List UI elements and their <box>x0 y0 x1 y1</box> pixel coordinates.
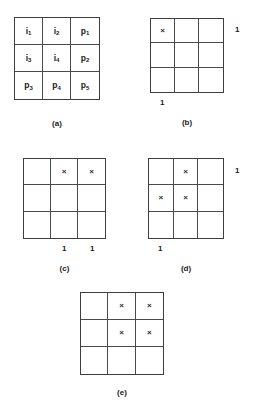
cell-b-r2c3 <box>199 43 223 67</box>
cell-d-r2c1: × <box>149 185 174 211</box>
cell-subscript: 1 <box>28 30 31 36</box>
cell-c-r3c2 <box>51 212 78 238</box>
cell-subscript: 3 <box>29 85 32 91</box>
cell-a-r3c3: p5 <box>71 72 99 99</box>
cell-e-r2c1 <box>81 320 108 347</box>
cell-subscript: 2 <box>86 57 89 63</box>
x-mark-icon: × <box>119 329 124 337</box>
cell-b-r1c2 <box>175 19 199 43</box>
column-label-d-col1: 1 <box>158 245 162 253</box>
caption-b: (b) <box>150 119 224 127</box>
cell-b-r3c3 <box>199 68 223 92</box>
cell-e-r2c2: × <box>108 320 135 347</box>
cell-e-r2c3: × <box>136 320 163 347</box>
cell-e-r3c2 <box>108 347 135 374</box>
cell-b-r1c3 <box>199 19 223 43</box>
panel-b: × 1 1 (b) <box>150 18 250 138</box>
panel-d: × × × 1 1 (d) <box>148 158 248 278</box>
x-mark-icon: × <box>158 194 163 202</box>
cell-e-r1c3: × <box>136 293 163 320</box>
caption-a: (a) <box>14 120 100 128</box>
cell-d-r2c3 <box>198 185 223 211</box>
x-mark-icon: × <box>183 168 188 176</box>
cell-a-r3c1: p3 <box>15 72 43 99</box>
x-mark-icon: × <box>62 168 67 176</box>
cell-c-r1c2: × <box>51 159 78 185</box>
panel-e: × × × × (e) <box>80 292 180 402</box>
cell-d-r1c2: × <box>174 159 199 185</box>
cell-d-r2c2: × <box>174 185 199 211</box>
cell-a-r2c2: i4 <box>43 45 71 72</box>
x-mark-icon: × <box>147 302 152 310</box>
panel-c: × × 1 1 (c) <box>23 158 123 278</box>
cell-c-r3c1 <box>24 212 51 238</box>
figure-page: i1 i2 p1 i3 i4 p2 p3 p4 p5 (a) × 1 1 (b) <box>0 0 254 410</box>
x-mark-icon: × <box>160 27 165 35</box>
cell-d-r3c1 <box>149 212 174 238</box>
cell-e-r3c3 <box>136 347 163 374</box>
row-label-b-row1: 1 <box>235 26 239 34</box>
grid-a: i1 i2 p1 i3 i4 p2 p3 p4 p5 <box>14 17 100 100</box>
cell-b-r3c1 <box>151 68 175 92</box>
x-mark-icon: × <box>183 194 188 202</box>
cell-c-r2c2 <box>51 185 78 211</box>
grid-b: × <box>150 18 224 93</box>
cell-c-r2c3 <box>78 185 105 211</box>
cell-a-r2c1: i3 <box>15 45 43 72</box>
cell-a-r1c3: p1 <box>71 18 99 45</box>
cell-subscript: 1 <box>86 30 89 36</box>
row-label-d-row1: 1 <box>235 167 239 175</box>
x-mark-icon: × <box>89 168 94 176</box>
cell-b-r2c2 <box>175 43 199 67</box>
grid-e: × × × × <box>80 292 164 375</box>
cell-subscript: 3 <box>28 57 31 63</box>
cell-c-r1c1 <box>24 159 51 185</box>
cell-subscript: 5 <box>86 85 89 91</box>
grid-c: × × <box>23 158 106 239</box>
cell-a-r1c2: i2 <box>43 18 71 45</box>
cell-subscript: 4 <box>56 57 59 63</box>
cell-b-r1c1: × <box>151 19 175 43</box>
column-label-b-col1: 1 <box>160 99 164 107</box>
cell-e-r1c1 <box>81 293 108 320</box>
x-mark-icon: × <box>119 302 124 310</box>
cell-c-r3c3 <box>78 212 105 238</box>
cell-a-r2c3: p2 <box>71 45 99 72</box>
caption-d: (d) <box>148 265 224 273</box>
caption-c: (c) <box>23 265 106 273</box>
caption-e: (e) <box>80 389 164 397</box>
grid-d: × × × <box>148 158 224 239</box>
cell-c-r2c1 <box>24 185 51 211</box>
cell-e-r1c2: × <box>108 293 135 320</box>
cell-d-r1c1 <box>149 159 174 185</box>
cell-subscript: 2 <box>56 30 59 36</box>
panel-a: i1 i2 p1 i3 i4 p2 p3 p4 p5 (a) <box>14 17 114 135</box>
cell-b-r3c2 <box>175 68 199 92</box>
x-mark-icon: × <box>147 329 152 337</box>
cell-a-r3c2: p4 <box>43 72 71 99</box>
cell-subscript: 4 <box>57 85 60 91</box>
column-label-c-col3: 1 <box>90 245 94 253</box>
cell-b-r2c1 <box>151 43 175 67</box>
cell-c-r1c3: × <box>78 159 105 185</box>
cell-d-r3c3 <box>198 212 223 238</box>
column-label-c-col2: 1 <box>62 245 66 253</box>
cell-d-r3c2 <box>174 212 199 238</box>
cell-a-r1c1: i1 <box>15 18 43 45</box>
cell-d-r1c3 <box>198 159 223 185</box>
cell-e-r3c1 <box>81 347 108 374</box>
